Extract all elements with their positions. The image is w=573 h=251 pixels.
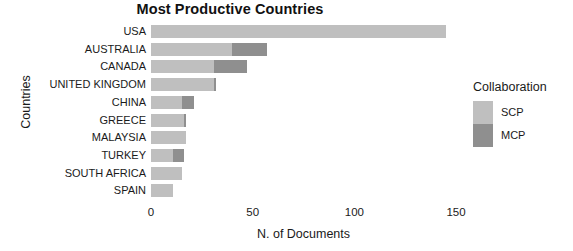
y-tick-south-africa: SOUTH AFRICA (6, 168, 146, 179)
y-tick-united-kingdom: UNITED KINGDOM (6, 79, 146, 90)
chart-title: Most Productive Countries (0, 1, 460, 17)
bar-segment-mcp (214, 60, 247, 73)
legend-items: SCPMCP (473, 101, 573, 147)
y-tick-usa: USA (6, 26, 146, 37)
legend-swatch-mcp (473, 124, 493, 147)
y-tick-malaysia: MALAYSIA (6, 132, 146, 143)
bar-segment-scp (151, 167, 182, 180)
bar-segment-scp (151, 25, 446, 38)
bar-segment-mcp (232, 43, 267, 56)
x-axis-title: N. of Documents (151, 227, 456, 241)
bar-segment-mcp (182, 96, 194, 109)
bar-segment-scp (151, 60, 214, 73)
plot-area (151, 24, 456, 201)
y-tick-turkey: TURKEY (6, 150, 146, 161)
x-tick-0: 0 (148, 206, 154, 218)
bar-greece (151, 114, 186, 127)
x-axis-tick-labels: 050100150 (151, 203, 456, 225)
y-tick-greece: GREECE (6, 115, 146, 126)
y-tick-canada: CANADA (6, 61, 146, 72)
legend-label-column: SCPMCP (501, 101, 525, 147)
bar-malaysia (151, 131, 186, 144)
chart-container: Most Productive Countries Countries USAA… (0, 0, 573, 251)
y-tick-australia: AUSTRALIA (6, 44, 146, 55)
bar-segment-scp (151, 149, 173, 162)
legend-label-mcp: MCP (501, 124, 525, 147)
bar-segment-scp (151, 184, 173, 197)
bar-united-kingdom (151, 78, 216, 91)
bar-china (151, 96, 194, 109)
x-tick-100: 100 (345, 206, 364, 218)
legend: Collaboration SCPMCP (473, 80, 573, 147)
legend-title: Collaboration (473, 80, 573, 94)
bar-segment-scp (151, 131, 186, 144)
bar-segment-mcp (173, 149, 183, 162)
x-tick-150: 150 (446, 206, 465, 218)
legend-swatch-column (473, 101, 493, 147)
bar-segment-mcp (184, 114, 186, 127)
bar-turkey (151, 149, 184, 162)
bar-south-africa (151, 167, 182, 180)
y-tick-china: CHINA (6, 97, 146, 108)
bar-spain (151, 184, 173, 197)
x-tick-50: 50 (246, 206, 259, 218)
y-tick-spain: SPAIN (6, 185, 146, 196)
bar-segment-scp (151, 78, 214, 91)
bar-usa (151, 25, 446, 38)
bar-segment-mcp (214, 78, 216, 91)
bar-segment-scp (151, 96, 182, 109)
bar-canada (151, 60, 247, 73)
bar-segment-scp (151, 43, 232, 56)
legend-label-scp: SCP (501, 101, 525, 124)
legend-swatch-scp (473, 101, 493, 124)
bar-segment-scp (151, 114, 184, 127)
bar-australia (151, 43, 267, 56)
y-axis-tick-labels: USAAUSTRALIACANADAUNITED KINGDOMCHINAGRE… (2, 24, 146, 201)
